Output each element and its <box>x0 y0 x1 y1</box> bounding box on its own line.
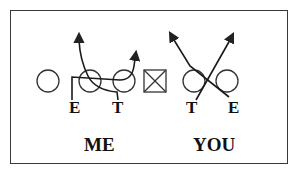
label-you-side: YOU <box>193 135 235 154</box>
label-me-end: E <box>69 99 80 116</box>
center-box-icon <box>144 70 166 92</box>
label-you-end: E <box>228 99 239 116</box>
route-you-end-arrow <box>170 33 229 97</box>
label-you-tackle: T <box>186 99 197 116</box>
label-me-side: ME <box>84 135 115 154</box>
clipped-caption <box>10 177 110 183</box>
lineman-circle-left-outer <box>37 70 59 92</box>
route-you-tackle-arrow <box>196 34 233 100</box>
lineman-circle-left-end <box>79 70 101 92</box>
label-me-tackle: T <box>112 99 123 116</box>
play-diagram <box>0 0 297 183</box>
